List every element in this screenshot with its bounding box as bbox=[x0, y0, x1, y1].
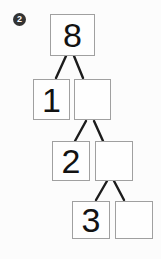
answer-box-level2-right[interactable] bbox=[95, 141, 133, 181]
connector-l1-to-l2-right bbox=[94, 121, 103, 141]
connector-root-to-l1-right bbox=[74, 56, 83, 78]
tree-box-level1-left: 1 bbox=[33, 79, 70, 120]
tree-box-level3-left: 3 bbox=[72, 201, 110, 239]
answer-box-level3-right[interactable] bbox=[115, 201, 153, 239]
connector-root-to-l1-left bbox=[56, 56, 66, 78]
tree-box-level2-left: 2 bbox=[52, 141, 90, 181]
answer-box-level1-right[interactable] bbox=[74, 79, 111, 120]
connector-l2-to-l3-left bbox=[96, 181, 107, 200]
connector-l2-to-l3-right bbox=[114, 181, 124, 200]
tree-box-root: 8 bbox=[50, 14, 95, 56]
worksheet-canvas: 2 8 1 2 3 bbox=[0, 0, 161, 259]
connector-l1-to-l2-left bbox=[75, 121, 86, 141]
